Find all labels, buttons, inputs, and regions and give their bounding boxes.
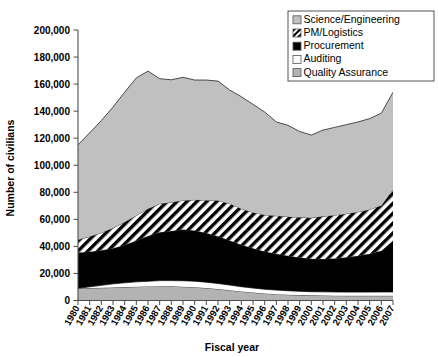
- y-tick-label: 180,000: [34, 52, 71, 63]
- legend-label-auditing: Auditing: [304, 52, 342, 64]
- y-tick-label: 200,000: [34, 25, 71, 36]
- legend-swatch-quality-assurance: [293, 69, 301, 77]
- y-tick-label: 140,000: [34, 106, 71, 117]
- y-tick-label: 120,000: [34, 133, 71, 144]
- chart-legend: Science/EngineeringPM/LogisticsProcureme…: [288, 11, 434, 81]
- legend-swatch-science-engineering: [293, 16, 301, 24]
- x-axis-title: Fiscal year: [205, 341, 259, 353]
- legend-label-science-engineering: Science/Engineering: [304, 13, 400, 25]
- y-axis-title: Number of civilians: [4, 119, 16, 216]
- stacked-area-chart: 020,00040,00060,00080,000100,000120,0001…: [0, 0, 438, 357]
- legend-label-pm-logistics: PM/Logistics: [304, 26, 364, 38]
- legend-swatch-auditing: [293, 55, 301, 63]
- y-tick-label: 40,000: [39, 241, 70, 252]
- legend-label-procurement: Procurement: [304, 39, 364, 51]
- y-tick-label: 20,000: [39, 268, 70, 279]
- chart-container: 020,00040,00060,00080,000100,000120,0001…: [0, 0, 438, 357]
- y-tick-label: 160,000: [34, 79, 71, 90]
- y-tick-label: 100,000: [34, 160, 71, 171]
- y-tick-label: 80,000: [39, 187, 70, 198]
- legend-label-quality-assurance: Quality Assurance: [304, 66, 389, 78]
- y-tick-label: 60,000: [39, 214, 70, 225]
- legend-swatch-procurement: [293, 42, 301, 50]
- y-tick-label: 0: [64, 295, 70, 306]
- legend-swatch-pm-logistics: [293, 29, 301, 37]
